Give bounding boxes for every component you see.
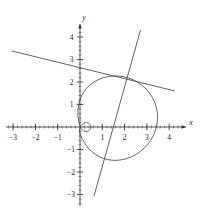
y-axis-arrow-icon — [78, 24, 81, 29]
x-tick-label: −2 — [31, 133, 39, 142]
y-axis-tick-labels: 4 3 2 1 −1 −2 −3 — [67, 33, 75, 200]
x-axis-arrow-icon — [182, 125, 187, 128]
x-tick-label: 2 — [123, 133, 127, 142]
y-axis-label: y — [81, 13, 86, 22]
steep-tangent-line — [94, 30, 141, 196]
y-tick-label: 4 — [70, 33, 74, 42]
shallow-tangent-line — [12, 51, 175, 91]
y-tick-label: 2 — [70, 78, 74, 87]
x-axis-label: x — [188, 118, 193, 127]
x-tick-label: −1 — [54, 133, 62, 142]
x-tick-label: 4 — [167, 133, 171, 142]
y-tick-label: 1 — [70, 100, 74, 109]
limacon-outer-curve — [78, 76, 158, 160]
x-tick-label: −3 — [9, 133, 17, 142]
plot-figure: −3 −2 −1 1 2 3 4 4 3 2 1 −1 −2 −3 x y — [0, 0, 202, 214]
y-tick-label: 3 — [70, 55, 74, 64]
plot-canvas: −3 −2 −1 1 2 3 4 4 3 2 1 −1 −2 −3 x y — [0, 0, 202, 214]
y-tick-label: −1 — [67, 145, 75, 154]
x-tick-label: 1 — [100, 133, 104, 142]
x-tick-label: 3 — [145, 133, 149, 142]
x-axis-tick-labels: −3 −2 −1 1 2 3 4 — [9, 133, 171, 142]
y-tick-label: −2 — [67, 168, 75, 177]
axes-group — [6, 24, 186, 206]
y-tick-label: −3 — [67, 190, 75, 199]
